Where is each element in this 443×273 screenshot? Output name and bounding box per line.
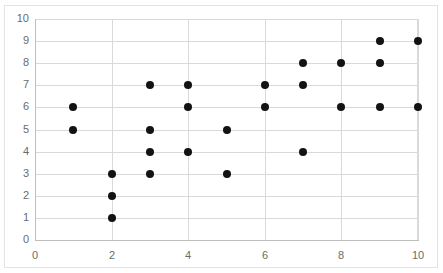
gridline-vertical [112,19,113,240]
data-point [223,126,231,134]
x-axis-tick-label: 2 [97,250,127,261]
x-axis-tick-label: 4 [173,250,203,261]
data-point [223,170,231,178]
data-point [108,170,116,178]
gridline-horizontal [35,218,418,219]
gridline-horizontal [35,63,418,64]
y-axis-line [35,19,36,241]
gridline-horizontal [35,107,418,108]
gridline-horizontal [35,85,418,86]
y-axis-tick-label: 4 [5,146,29,157]
cropped-chart-title [60,0,360,3]
y-axis-tick-label: 6 [5,101,29,112]
gridline-horizontal [35,41,418,42]
gridline-horizontal [35,19,418,20]
x-axis-line [35,240,419,241]
data-point [146,148,154,156]
y-axis-tick-label: 3 [5,168,29,179]
data-point [108,214,116,222]
y-axis-tick-label: 1 [5,212,29,223]
data-point [69,126,77,134]
y-axis-tick-label: 8 [5,57,29,68]
gridline-horizontal [35,152,418,153]
data-point [376,59,384,67]
x-axis-tick-label: 8 [326,250,356,261]
y-axis-tick-label: 2 [5,190,29,201]
x-axis-tick-label: 10 [403,250,433,261]
gridline-horizontal [35,196,418,197]
gridline-vertical [418,19,419,240]
y-axis-tick-label: 5 [5,124,29,135]
gridline-vertical [265,19,266,240]
gridline-vertical [188,19,189,240]
x-axis-tick-label: 6 [250,250,280,261]
gridline-vertical [341,19,342,240]
data-point [108,192,116,200]
y-axis-tick-label: 9 [5,35,29,46]
y-axis-tick-label: 7 [5,79,29,90]
data-point [146,170,154,178]
x-axis-tick-label: 0 [20,250,50,261]
scatter-plot-screenshot: 0123456789100246810 [0,0,443,273]
y-axis-tick-label: 0 [5,234,29,245]
y-axis-tick-label: 10 [5,13,29,24]
data-point [184,148,192,156]
data-point [146,126,154,134]
data-point [376,37,384,45]
data-point [299,148,307,156]
